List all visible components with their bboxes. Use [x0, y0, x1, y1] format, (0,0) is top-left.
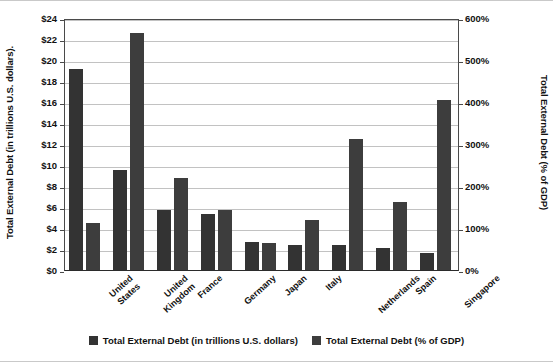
y-axis-right-tickmark	[459, 272, 463, 273]
y-axis-left-tickmark	[60, 104, 64, 105]
y-axis-left-tickmark	[60, 125, 64, 126]
bar-debt-trillions[interactable]	[113, 170, 127, 270]
chart-legend: Total External Debt (in trillions U.S. d…	[0, 335, 553, 346]
bar-debt-pct-gdp[interactable]	[305, 220, 319, 270]
x-axis-label: United States	[107, 273, 142, 307]
y-axis-left-tickmark	[60, 20, 64, 21]
y-axis-left-tick-label: $18	[41, 77, 57, 87]
chart-figure: Total External Debt (in trillions U.S. d…	[0, 0, 553, 362]
y-axis-left-tickmark	[60, 230, 64, 231]
y-axis-left-tickmark	[60, 41, 64, 42]
x-axis-label: United Kingdom	[154, 273, 197, 315]
y-axis-left-title: Total External Debt (in trillions U.S. d…	[2, 1, 16, 284]
y-axis-right-tick-label: 100%	[465, 224, 489, 234]
y-axis-left-tick-label: $20	[41, 56, 57, 66]
x-axis-label: Italy	[324, 273, 344, 293]
y-axis-right-tick-label: 500%	[465, 56, 489, 66]
y-axis-left-tickmark	[60, 251, 64, 252]
bar-debt-pct-gdp[interactable]	[437, 100, 451, 270]
bar-group	[328, 20, 372, 270]
y-axis-left-tickmark	[60, 83, 64, 84]
bar-group	[65, 20, 109, 270]
y-axis-left-tickmark	[60, 209, 64, 210]
bar-group	[284, 20, 328, 270]
y-axis-left-tick-label: $12	[41, 140, 57, 150]
y-axis-left-tickmark	[60, 146, 64, 147]
legend-item-debt-trillions: Total External Debt (in trillions U.S. d…	[89, 335, 298, 346]
y-axis-left-tick-label: $4	[46, 224, 57, 234]
y-axis-right-ticks: 0%100%200%300%400%500%600%	[465, 19, 497, 271]
bar-group	[372, 20, 416, 270]
bar-debt-pct-gdp[interactable]	[174, 178, 188, 270]
y-axis-left-tick-label: $24	[41, 14, 57, 24]
legend-label: Total External Debt (in trillions U.S. d…	[103, 335, 298, 346]
bar-group	[109, 20, 153, 270]
bar-debt-trillions[interactable]	[376, 248, 390, 270]
y-axis-left-tick-label: $6	[46, 203, 57, 213]
y-axis-left-tick-label: $16	[41, 98, 57, 108]
y-axis-left-tick-label: $14	[41, 119, 57, 129]
bar-debt-pct-gdp[interactable]	[86, 223, 100, 270]
y-axis-right-tick-label: 600%	[465, 14, 489, 24]
bar-debt-trillions[interactable]	[332, 245, 346, 270]
legend-label: Total External Debt (% of GDP)	[326, 335, 464, 346]
bar-debt-pct-gdp[interactable]	[393, 202, 407, 270]
y-axis-right-title-text: Total External Debt (% of GDP)	[540, 75, 551, 210]
y-axis-left-tickmark	[60, 188, 64, 189]
x-axis-label: Netherlands	[377, 273, 423, 316]
x-axis-category-labels: United StatesUnited KingdomFranceGermany…	[64, 273, 459, 329]
legend-swatch-icon	[312, 336, 321, 345]
y-axis-right-tick-label: 300%	[465, 140, 489, 150]
bar-debt-pct-gdp[interactable]	[218, 210, 232, 270]
bar-group	[416, 20, 460, 270]
y-axis-left-tick-label: $2	[46, 245, 57, 255]
y-axis-left-ticks: $0$2$4$6$8$10$12$14$16$18$20$22$24	[25, 19, 57, 271]
y-axis-right-tick-label: 400%	[465, 98, 489, 108]
bar-debt-trillions[interactable]	[157, 210, 171, 270]
bar-debt-trillions[interactable]	[420, 253, 434, 270]
y-axis-left-tick-label: $8	[46, 182, 57, 192]
bar-debt-trillions[interactable]	[69, 69, 83, 270]
bar-group	[197, 20, 241, 270]
y-axis-right-title: Total External Debt (% of GDP)	[538, 1, 552, 284]
plot-area	[64, 19, 459, 271]
y-axis-right-tick-label: 200%	[465, 182, 489, 192]
x-axis-label: Germany	[242, 273, 278, 307]
bar-debt-trillions[interactable]	[245, 242, 259, 270]
y-axis-left-tickmark	[60, 167, 64, 168]
x-axis-label: Japan	[282, 273, 308, 298]
bar-debt-trillions[interactable]	[288, 245, 302, 270]
x-axis-label: France	[195, 273, 224, 301]
y-axis-right-tick-label: 0%	[465, 266, 479, 276]
bar-group	[241, 20, 285, 270]
y-axis-left-tick-label: $10	[41, 161, 57, 171]
y-axis-left-tick-label: $0	[46, 266, 57, 276]
bar-group	[153, 20, 197, 270]
legend-swatch-icon	[89, 336, 98, 345]
y-axis-left-tickmark	[60, 62, 64, 63]
bar-debt-pct-gdp[interactable]	[349, 139, 363, 270]
bar-series-container	[65, 20, 458, 270]
bar-debt-pct-gdp[interactable]	[130, 33, 144, 270]
bar-debt-trillions[interactable]	[201, 214, 215, 270]
y-axis-left-tick-label: $22	[41, 35, 57, 45]
y-axis-left-title-text: Total External Debt (in trillions U.S. d…	[4, 46, 15, 239]
legend-item-debt-pct-gdp: Total External Debt (% of GDP)	[312, 335, 464, 346]
x-axis-label: Singapore	[462, 273, 502, 310]
bar-debt-pct-gdp[interactable]	[262, 243, 276, 270]
